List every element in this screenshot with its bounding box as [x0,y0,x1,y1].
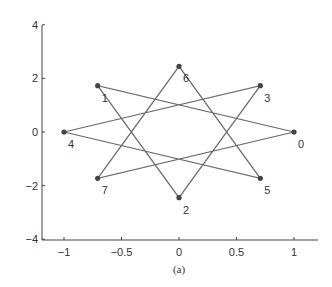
y-tick-label: 2 [32,72,38,84]
x-tick-label: 0 [176,246,182,258]
y-tick-label: 4 [32,19,38,31]
point-label-2: 2 [183,204,189,216]
x-tick-label: 0.5 [229,246,244,258]
point-marker-2 [176,195,181,200]
point-markers [61,64,296,201]
point-label-1: 1 [102,92,108,104]
x-tick-label: −1 [58,246,71,258]
point-marker-6 [176,64,181,69]
y-tick-label: −4 [25,233,38,245]
point-label-0: 0 [298,138,304,150]
y-tick-label: 0 [32,126,38,138]
point-marker-3 [258,83,263,88]
point-marker-0 [291,129,296,134]
point-label-3: 3 [264,92,270,104]
x-tick-label: −0.5 [111,246,133,258]
point-marker-1 [95,83,100,88]
x-tick-label: 1 [291,246,297,258]
y-tick-label: −2 [25,180,38,192]
point-marker-7 [95,176,100,181]
star-chart: 420−2−4−1−0.500.51 01234567 (a) [0,0,332,287]
point-label-7: 7 [102,184,108,196]
point-marker-5 [258,176,263,181]
point-label-5: 5 [264,184,270,196]
point-label-6: 6 [183,72,189,84]
figure-caption: (a) [173,263,186,276]
point-labels: 01234567 [68,72,304,215]
point-label-4: 4 [68,138,74,150]
point-marker-4 [61,129,66,134]
